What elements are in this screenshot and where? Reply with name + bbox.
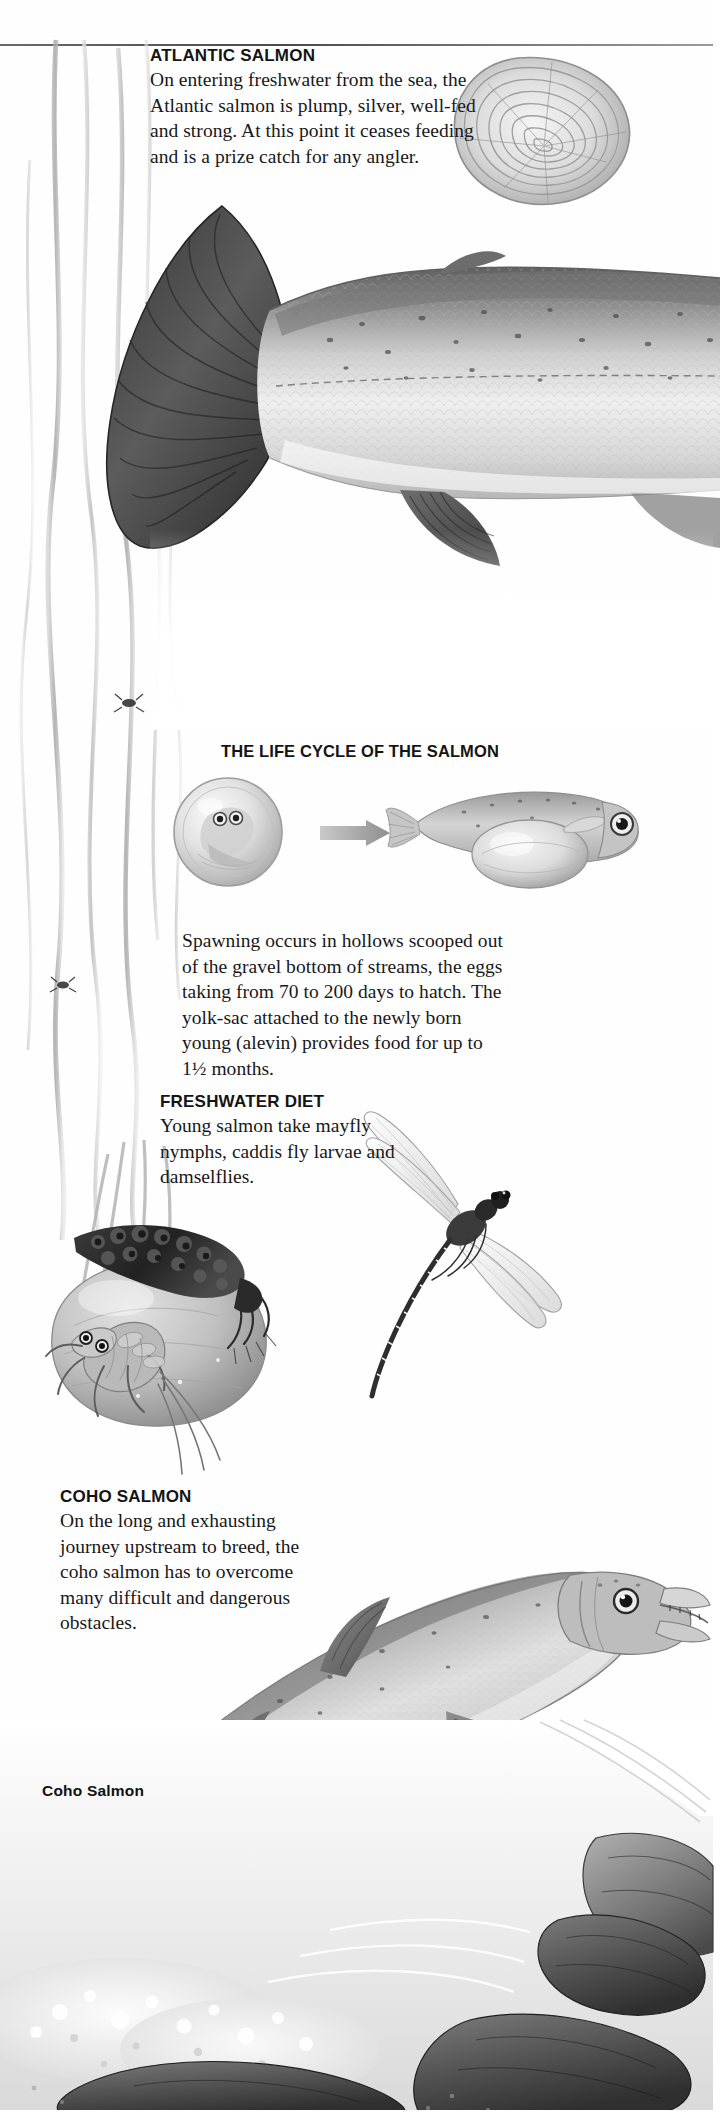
atlantic-salmon-body-illustration	[70, 190, 720, 610]
salmon-tail-fin	[107, 206, 291, 548]
yolk-sac	[472, 820, 588, 888]
damselfly-body	[372, 1191, 511, 1397]
coho-salmon-body: On the long and exhausting journey upstr…	[60, 1508, 310, 1636]
river-stone-illustration	[52, 1260, 266, 1426]
coho-salmon-text-block: COHO SALMON On the long and exhausting j…	[60, 1487, 310, 1636]
freshwater-diet-body: Young salmon take mayfly nymphs, caddis …	[160, 1113, 410, 1190]
life-cycle-heading: THE LIFE CYCLE OF THE SALMON	[190, 741, 530, 761]
freshwater-diet-heading: FRESHWATER DIET	[160, 1092, 410, 1112]
alevin-eye	[611, 813, 633, 835]
salmon-egg-illustration	[174, 778, 282, 886]
coho-head	[558, 1572, 710, 1654]
life-cycle-illustration	[160, 768, 660, 908]
coho-anal-fin	[302, 1793, 378, 1851]
river-foam	[0, 1958, 380, 2102]
salmon-anal-fin	[400, 490, 500, 566]
stem-insect-icon	[114, 694, 144, 712]
salmon-adipose-fin	[440, 251, 506, 274]
freshwater-diet-illustration	[12, 1140, 332, 1480]
life-cycle-text-block: Spawning occurs in hollows scooped out o…	[182, 928, 512, 1081]
bottom-margin	[0, 2110, 713, 2114]
salmon-main-body	[257, 267, 720, 499]
life-cycle-body: Spawning occurs in hollows scooped out o…	[182, 928, 512, 1081]
damselfly-head	[491, 1191, 509, 1209]
river-rocks-illustration	[0, 1720, 713, 2114]
coho-salmon-heading: COHO SALMON	[60, 1487, 310, 1507]
atlantic-salmon-heading: ATLANTIC SALMON	[150, 46, 480, 66]
mayfly-nymph-illustration	[46, 1322, 220, 1474]
coho-pectoral-fin	[446, 1711, 546, 1751]
arrow-icon	[320, 820, 390, 846]
coho-dorsal-fin	[320, 1597, 390, 1677]
rock-cluster-bottom	[57, 2062, 405, 2114]
coho-salmon-caption: Coho Salmon	[42, 1782, 144, 1799]
coho-eye	[614, 1589, 638, 1613]
caddis-larva-illustration	[74, 1225, 276, 1364]
coho-adipose-fin	[230, 1711, 270, 1757]
alevin-illustration	[386, 792, 638, 888]
coho-salmon-caption-block: Coho Salmon	[42, 1782, 144, 1800]
atlantic-salmon-body: On entering freshwater from the sea, the…	[150, 67, 480, 169]
rock-cluster-right	[414, 1833, 713, 2114]
freshwater-diet-text-block: FRESHWATER DIET Young salmon take mayfly…	[160, 1092, 410, 1190]
background-wash	[150, 530, 713, 730]
life-cycle-heading-block: THE LIFE CYCLE OF THE SALMON	[190, 741, 530, 762]
reed-stems	[78, 1140, 170, 1316]
salmon-pelvic-fin	[630, 492, 720, 548]
atlantic-salmon-text-block: ATLANTIC SALMON On entering freshwater f…	[150, 46, 480, 169]
